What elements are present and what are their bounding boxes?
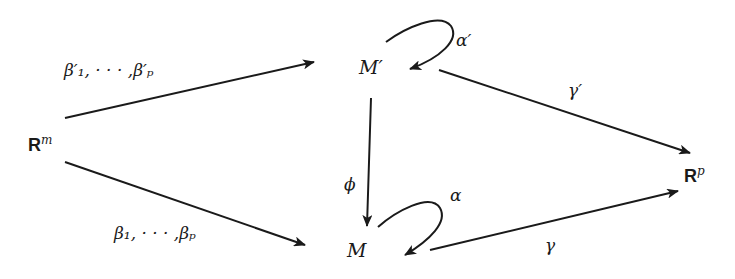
node-r-m-base: R [28, 135, 41, 155]
diagram-edges [0, 0, 735, 279]
label-alpha: α [450, 187, 461, 204]
label-alpha-prime: α′ [456, 32, 471, 49]
label-gamma-prime: γ′ [568, 82, 582, 99]
label-beta-prime: β′₁, · · · ,β′ₚ [64, 62, 154, 79]
label-beta: β₁, · · · ,βₚ [114, 225, 196, 242]
node-r-p-superscript: p [697, 164, 705, 178]
node-m: M [347, 241, 366, 260]
node-m-prime: M′ [359, 58, 383, 77]
loop-alpha [378, 202, 442, 255]
node-r-p: Rp [684, 165, 705, 185]
arrow-gamma-prime [439, 70, 690, 153]
node-r-p-base: R [684, 166, 697, 186]
loop-alpha-prime [386, 21, 453, 69]
label-gamma: γ [545, 237, 555, 254]
node-r-m: Rm [28, 134, 52, 154]
label-phi: ϕ [344, 176, 356, 193]
arrow-phi [367, 98, 371, 226]
node-r-m-superscript: m [41, 133, 52, 147]
